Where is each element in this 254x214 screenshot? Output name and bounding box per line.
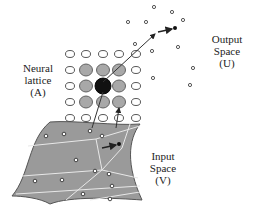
input-point bbox=[107, 172, 111, 176]
label-line: (A) bbox=[18, 86, 58, 98]
lattice-neuron bbox=[66, 83, 75, 90]
neighbor-neuron bbox=[80, 64, 93, 76]
input-point bbox=[93, 169, 97, 173]
winner-neuron bbox=[95, 78, 111, 94]
lattice-neuron bbox=[132, 83, 141, 90]
lattice-neuron bbox=[66, 67, 75, 74]
lattice-neuron bbox=[115, 51, 124, 58]
input-point bbox=[88, 129, 92, 133]
neighbor-neuron bbox=[80, 96, 93, 108]
output-point bbox=[176, 45, 179, 48]
lattice-neuron bbox=[115, 115, 124, 122]
label-line: Space bbox=[204, 45, 250, 57]
input-point bbox=[44, 134, 48, 138]
surface-shape bbox=[12, 122, 142, 204]
output-point bbox=[144, 20, 147, 23]
input-point bbox=[60, 178, 64, 182]
input-point bbox=[108, 197, 112, 201]
label-line: Output bbox=[204, 33, 250, 45]
input-point bbox=[100, 134, 104, 138]
neural-lattice-label: Neural lattice (A) bbox=[18, 62, 58, 98]
output-point bbox=[133, 42, 136, 45]
lattice-neuron bbox=[82, 51, 91, 58]
label-line: lattice bbox=[18, 74, 58, 86]
mapping-line-input-to-winner bbox=[92, 92, 103, 128]
input-point bbox=[74, 158, 78, 162]
input-point bbox=[81, 192, 85, 196]
output-point bbox=[150, 49, 153, 52]
neighbor-neuron bbox=[113, 64, 126, 76]
lattice-neuron bbox=[82, 115, 91, 122]
input-point bbox=[110, 184, 114, 188]
output-point bbox=[151, 76, 154, 79]
neural-lattice bbox=[66, 51, 141, 122]
output-point bbox=[188, 83, 191, 86]
label-line: Space bbox=[140, 162, 186, 174]
input-vector-endpoint bbox=[117, 142, 121, 146]
lattice-neuron bbox=[99, 51, 108, 58]
output-point bbox=[170, 10, 173, 13]
output-vector-arrow bbox=[158, 29, 172, 32]
lattice-neuron bbox=[132, 67, 141, 74]
output-vector-endpoint bbox=[173, 26, 177, 30]
lattice-neuron bbox=[132, 115, 141, 122]
output-point bbox=[191, 66, 194, 69]
output-point bbox=[152, 5, 155, 8]
lattice-neuron bbox=[66, 99, 75, 106]
lattice-neuron bbox=[132, 99, 141, 106]
label-line: (U) bbox=[204, 57, 250, 69]
label-line: Input bbox=[140, 150, 186, 162]
output-point bbox=[126, 20, 129, 23]
lattice-neuron bbox=[99, 115, 108, 122]
neighbor-neuron bbox=[113, 96, 126, 108]
output-point bbox=[181, 18, 184, 21]
lattice-neuron bbox=[66, 51, 75, 58]
neighbor-neuron bbox=[97, 64, 110, 76]
neighbor-neuron bbox=[80, 80, 93, 92]
input-space-label: Input Space (V) bbox=[140, 150, 186, 186]
neighbor-neuron bbox=[113, 80, 126, 92]
label-line: Neural bbox=[18, 62, 58, 74]
mapping-line-winner-to-output bbox=[103, 34, 155, 82]
output-space-label: Output Space (U) bbox=[204, 33, 250, 69]
lattice-neuron bbox=[66, 115, 75, 122]
input-space-surface bbox=[12, 122, 142, 204]
input-point bbox=[33, 179, 37, 183]
label-line: (V) bbox=[140, 174, 186, 186]
input-point bbox=[62, 132, 66, 136]
output-data-points bbox=[126, 5, 194, 86]
